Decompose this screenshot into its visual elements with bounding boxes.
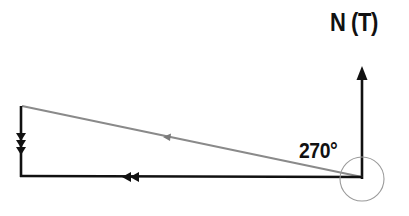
angle-label: 270°: [299, 138, 337, 164]
west-vector: [20, 172, 362, 182]
north-arrowhead-icon: [357, 66, 368, 80]
south-arrowhead-icon: [16, 133, 26, 141]
south-arrowhead-icon: [16, 147, 26, 155]
north-true-label: N (T): [330, 8, 378, 37]
south-vector: [16, 106, 26, 177]
west-arrowhead-icon: [122, 172, 131, 182]
west-arrowhead-icon: [130, 172, 139, 182]
south-arrowhead-icon: [16, 140, 26, 148]
north-arrow: [357, 66, 368, 179]
